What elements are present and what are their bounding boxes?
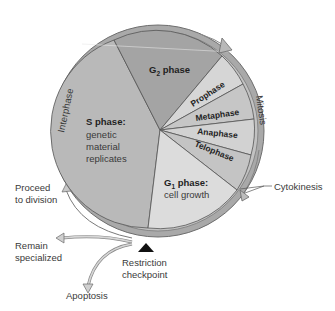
arrow-head-remain-icon [56,233,64,243]
s-phase-title: S phase: [86,116,126,127]
remain-label-1: Remain [15,240,48,251]
cytokinesis-label: Cytokinesis [274,181,323,192]
proceed-label-1: Proceed [15,182,50,193]
s-phase-line-3: replicates [86,153,127,164]
g1-phase-line-1: cell growth [164,189,209,200]
restriction-checkpoint-icon [138,243,154,252]
g1-phase-title: G1 phase: [164,177,208,190]
remain-label-2: specialized [15,252,62,263]
arrow-head-top-icon [219,38,232,53]
restriction-label-1: Restriction [122,257,167,268]
apoptosis-label: Apoptosis [66,290,108,301]
s-phase-line-2: material [86,141,120,152]
s-phase-line-1: genetic [86,129,117,140]
restriction-label-2: checkpoint [122,269,168,280]
g2-phase-title: G2 phase [149,64,190,77]
proceed-label-2: to division [15,194,57,205]
cell-cycle-diagram: Interphase Mitosis S phase: genetic mate… [0,0,335,311]
